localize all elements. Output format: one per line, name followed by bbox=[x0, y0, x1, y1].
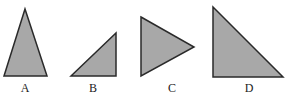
triangle-d-shape bbox=[213, 7, 283, 77]
triangle-a-label: A bbox=[21, 81, 30, 95]
triangle-b-shape bbox=[71, 33, 116, 76]
triangle-d: D bbox=[213, 7, 283, 95]
triangle-b-label: B bbox=[89, 81, 97, 95]
triangle-b: B bbox=[71, 33, 116, 95]
triangle-a-shape bbox=[4, 9, 47, 76]
triangles-diagram: A B C D bbox=[0, 0, 285, 96]
triangle-c: C bbox=[141, 17, 194, 95]
triangle-c-shape bbox=[141, 17, 194, 76]
triangle-d-label: D bbox=[245, 81, 254, 95]
triangle-c-label: C bbox=[168, 81, 176, 95]
triangle-a: A bbox=[4, 9, 47, 95]
